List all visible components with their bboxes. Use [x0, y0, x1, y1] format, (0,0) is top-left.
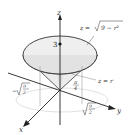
y-axis-arrow	[108, 105, 116, 110]
diagram-canvas: z y x 3 z = 9 − r² z = r π 4 − 9 2 9 2	[0, 0, 130, 135]
neg-radius-num: 9	[23, 84, 26, 89]
radius-den: 2	[88, 110, 92, 115]
y-axis-label: y	[116, 107, 122, 115]
cone-eq-label: z = r	[97, 77, 114, 84]
sphere-eq-prefix: z =	[79, 24, 90, 31]
height-label: 3	[53, 41, 57, 49]
height-point	[58, 42, 61, 45]
z-axis-label: z	[56, 9, 61, 17]
x-axis	[26, 90, 60, 124]
radius-num: 9	[89, 104, 92, 109]
angle-denominator: 4	[73, 85, 77, 91]
neg-sign: −	[12, 87, 17, 94]
x-axis-label: x	[19, 126, 23, 134]
neg-radius-den: 2	[22, 90, 26, 95]
sphere-eq-radicand: 9 − r²	[101, 24, 120, 31]
